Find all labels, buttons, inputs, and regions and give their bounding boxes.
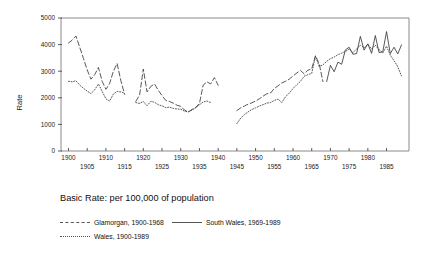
chart-caption: Basic Rate: per 100,000 of population <box>60 193 214 203</box>
legend-row-primary: Glamorgan, 1900-1968South Wales, 1969-19… <box>60 219 288 226</box>
x-axis-tick-label: 1940 <box>211 154 226 161</box>
line-chart-plot: 010002000300040005000Rate190019051910191… <box>0 0 426 200</box>
legend-label: Glamorgan, 1900-1968 <box>94 219 164 226</box>
legend-label: South Wales, 1969-1989 <box>206 219 281 226</box>
legend-row-secondary: Wales, 1900-1989 <box>60 233 157 240</box>
x-axis-tick-label: 1980 <box>361 154 376 161</box>
x-axis-tick-label: 1920 <box>136 154 151 161</box>
y-axis-tick-label: 5000 <box>41 14 56 21</box>
data-series-line <box>327 32 402 82</box>
legend-swatch-solid <box>172 222 202 223</box>
x-axis-tick-label: 1945 <box>230 163 245 170</box>
x-axis-tick-label: 1930 <box>174 154 189 161</box>
x-axis-tick-label: 1955 <box>267 163 282 170</box>
legend-swatch-dotted <box>60 236 90 237</box>
x-axis-tick-label: 1935 <box>192 163 207 170</box>
plot-border <box>61 18 409 151</box>
x-axis-tick-label: 1975 <box>342 163 357 170</box>
y-axis-tick-label: 1000 <box>41 121 56 128</box>
y-axis-title: Rate <box>15 94 24 110</box>
x-axis-tick-label: 1970 <box>323 154 338 161</box>
x-axis-tick-label: 1965 <box>305 163 320 170</box>
data-series-line <box>68 36 322 112</box>
x-axis-tick-label: 1960 <box>286 154 301 161</box>
y-axis-tick-label: 4000 <box>41 41 56 48</box>
y-axis-tick-label: 3000 <box>41 68 56 75</box>
x-axis-tick-label: 1925 <box>155 163 170 170</box>
data-series-line <box>68 44 401 123</box>
x-axis-tick-label: 1915 <box>118 163 133 170</box>
x-axis-tick-label: 1900 <box>61 154 76 161</box>
legend-swatch-dashed <box>60 222 90 223</box>
x-axis-tick-label: 1905 <box>80 163 95 170</box>
x-axis-tick-label: 1950 <box>248 154 263 161</box>
y-axis-tick-label: 2000 <box>41 94 56 101</box>
y-axis-tick-label: 0 <box>51 147 55 154</box>
x-axis-tick-label: 1910 <box>99 154 114 161</box>
legend-label: Wales, 1900-1989 <box>94 233 149 240</box>
chart-figure: 010002000300040005000Rate190019051910191… <box>0 0 426 257</box>
x-axis-tick-label: 1985 <box>379 163 394 170</box>
